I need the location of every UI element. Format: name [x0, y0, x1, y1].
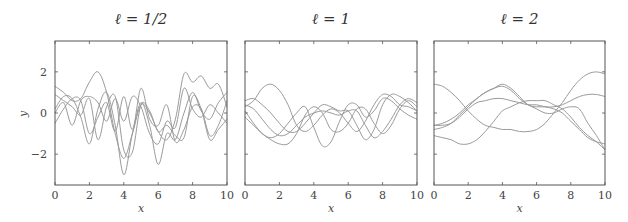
curves [245, 84, 417, 147]
x-tick-label: 8 [379, 189, 386, 202]
sample-curve [434, 100, 605, 150]
x-tick-label: 4 [310, 189, 317, 202]
y-tick-label: −2 [31, 148, 47, 161]
panel-1: ℓ = 1/20246810−202xy [17, 10, 234, 215]
x-tick-label: 4 [499, 189, 506, 202]
x-tick-label: 8 [189, 189, 196, 202]
x-tick-label: 10 [220, 189, 234, 202]
sample-curve [245, 99, 417, 138]
x-tick-label: 2 [465, 189, 472, 202]
sample-curve [434, 84, 605, 144]
x-tick-label: 0 [242, 189, 249, 202]
x-tick-label: 8 [567, 189, 574, 202]
curves [55, 72, 227, 175]
x-tick-label: 4 [120, 189, 127, 202]
x-tick-label: 6 [155, 189, 162, 202]
sample-curve [434, 72, 605, 132]
y-tick-label: 0 [40, 107, 47, 120]
sample-curve [434, 86, 605, 150]
x-axis-label: x [138, 202, 145, 215]
x-tick-label: 6 [345, 189, 352, 202]
y-tick-label: 2 [40, 66, 47, 79]
panel-title: ℓ = 1 [312, 10, 350, 28]
figure: ℓ = 1/20246810−202xy ℓ = 10246810x ℓ = 2… [0, 0, 628, 222]
x-axis-label: x [328, 202, 335, 215]
x-tick-label: 0 [431, 189, 438, 202]
x-tick-label: 6 [533, 189, 540, 202]
curves [434, 72, 605, 150]
x-tick-label: 2 [276, 189, 283, 202]
sample-curve [55, 94, 227, 157]
x-tick-label: 0 [52, 189, 59, 202]
panel-title: ℓ = 1/2 [115, 10, 168, 28]
panel-3: ℓ = 20246810x [431, 10, 613, 215]
x-tick-label: 10 [598, 189, 612, 202]
x-tick-label: 10 [410, 189, 424, 202]
x-tick-label: 2 [86, 189, 93, 202]
axes-frame [55, 41, 227, 185]
y-axis-label: y [17, 110, 30, 118]
x-axis-label: x [516, 202, 523, 215]
panel-2: ℓ = 10246810x [242, 10, 425, 215]
panel-title: ℓ = 2 [501, 10, 539, 28]
